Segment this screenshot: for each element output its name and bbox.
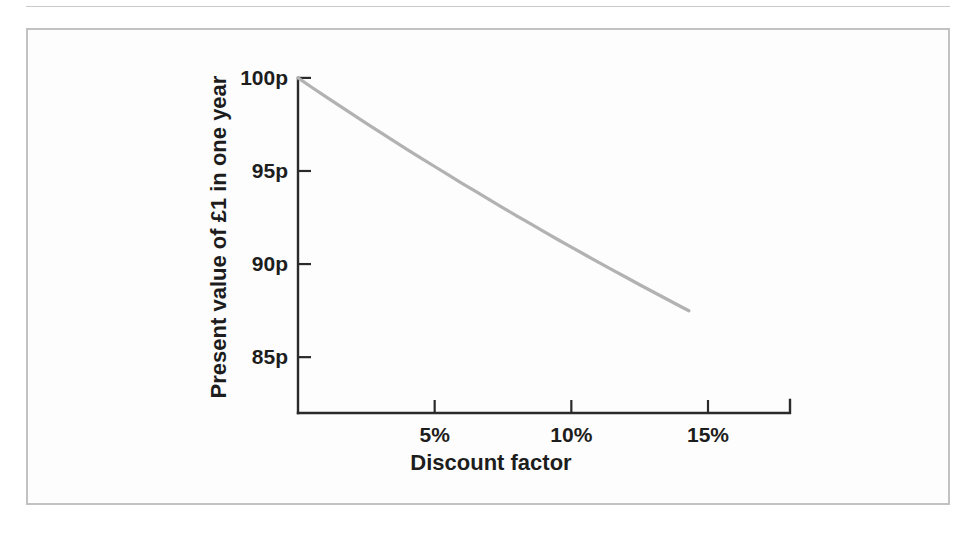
- present-value-line-chart: 85p90p95p100p 5%10%15% Discount factor P…: [0, 0, 977, 534]
- x-axis-line: [298, 400, 790, 413]
- y-axis-ticks: [298, 78, 311, 357]
- x-axis-tick-label: 10%: [550, 423, 592, 446]
- y-axis-tick-label: 100p: [240, 66, 288, 89]
- x-axis-title: Discount factor: [410, 450, 572, 475]
- chart-plot-area: 85p90p95p100p 5%10%15% Discount factor P…: [0, 0, 977, 534]
- y-axis-tick-label: 85p: [252, 345, 288, 368]
- scanned-page: 85p90p95p100p 5%10%15% Discount factor P…: [0, 0, 977, 534]
- x-axis-tick-label: 15%: [687, 423, 729, 446]
- y-axis-tick-label: 90p: [252, 252, 288, 275]
- x-axis-tick-label: 5%: [419, 423, 450, 446]
- y-axis-title: Present value of £1 in one year: [206, 75, 231, 398]
- x-axis-tick-labels: 5%10%15%: [419, 423, 729, 446]
- present-value-curve: [298, 78, 689, 311]
- y-axis-tick-labels: 85p90p95p100p: [240, 66, 288, 368]
- y-axis-tick-label: 95p: [252, 159, 288, 182]
- x-axis-ticks: [435, 400, 708, 413]
